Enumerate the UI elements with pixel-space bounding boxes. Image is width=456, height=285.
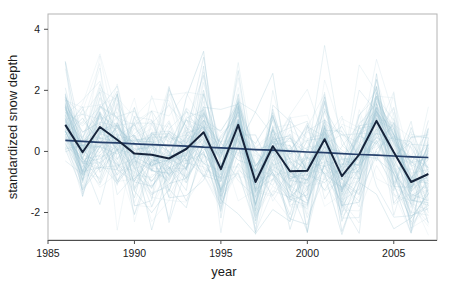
y-tick-label: -2 bbox=[31, 206, 40, 218]
x-tick-label: 1985 bbox=[36, 247, 60, 259]
snow-depth-line-chart: -2024 19851990199520002005 year standard… bbox=[0, 0, 456, 285]
x-tick-label: 1990 bbox=[123, 247, 147, 259]
x-tick-label: 2000 bbox=[296, 247, 320, 259]
x-tick-label: 2005 bbox=[382, 247, 406, 259]
x-tick-label: 1995 bbox=[209, 247, 233, 259]
x-axis-title: year bbox=[211, 264, 237, 279]
chart-container: -2024 19851990199520002005 year standard… bbox=[0, 0, 456, 285]
y-axis-title: standardized snow depth bbox=[5, 55, 20, 200]
y-tick-label: 0 bbox=[34, 145, 40, 157]
y-tick-label: 2 bbox=[34, 84, 40, 96]
y-tick-label: 4 bbox=[34, 23, 40, 35]
